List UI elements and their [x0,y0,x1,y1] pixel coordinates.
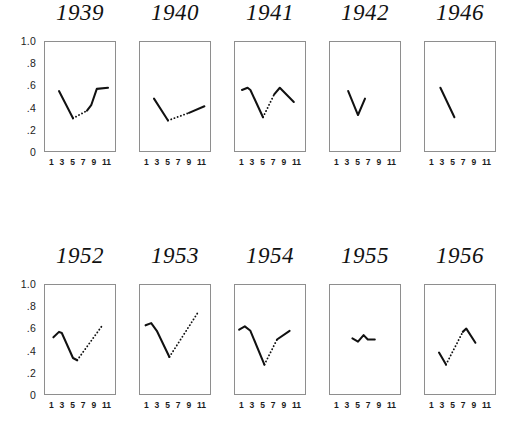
plot-area [44,284,116,395]
x-tick-label: 3 [345,157,350,167]
panel-title: 1946 [418,0,502,26]
x-axis-labels: 1357911 [424,400,496,410]
x-tick-label: 3 [440,157,445,167]
x-axis-labels: 1357911 [139,157,211,167]
panel-title: 1939 [38,0,122,26]
plot-area [234,284,306,395]
panel-row-bottom: 1.0.8.6.4.20 195213579111953135791119541… [0,243,513,444]
x-tick-label: 11 [292,157,301,167]
panel-title: 1955 [323,243,407,269]
panel-title: 1942 [323,0,407,26]
x-tick-label: 1 [144,400,149,410]
plot-area [424,41,496,152]
x-tick-label: 9 [186,400,191,410]
x-tick-label: 7 [461,400,466,410]
x-tick-label: 7 [176,157,181,167]
plot-area [329,284,401,395]
x-axis-labels: 1357911 [139,400,211,410]
x-tick-label: 5 [355,400,360,410]
plot-area [139,41,211,152]
x-tick-label: 11 [387,400,396,410]
y-tick-label: .6 [4,80,36,90]
x-tick-label: 11 [102,157,111,167]
series-segment-solid [59,91,73,118]
y-axis-bottom: 1.0.8.6.4.20 [4,284,36,395]
x-tick-label: 3 [250,400,255,410]
x-tick-label: 11 [197,157,206,167]
x-tick-label: 7 [81,157,86,167]
series-segment-dotted [264,340,277,365]
plot-area [424,284,496,395]
y-axis-top: 1.0.8.6.4.20 [4,41,36,152]
x-tick-label: 7 [271,400,276,410]
x-tick-label: 7 [366,400,371,410]
plot-area [329,41,401,152]
plot-area [139,284,211,395]
x-tick-label: 1 [334,157,339,167]
y-tick-label: 1.0 [4,36,36,46]
x-tick-label: 5 [355,157,360,167]
series-segment-solid [242,88,263,117]
panel-title: 1952 [38,243,122,269]
series-segment-dotted [73,111,87,119]
x-axis-labels: 1357911 [234,400,306,410]
x-tick-label: 9 [281,400,286,410]
x-tick-label: 1 [429,157,434,167]
x-tick-label: 5 [165,400,170,410]
x-tick-label: 5 [260,157,265,167]
panel-row-top: 1.0.8.6.4.20 193913579111940135791119411… [0,0,513,200]
x-tick-label: 9 [376,157,381,167]
panel-title: 1954 [228,243,312,269]
x-tick-label: 9 [91,400,96,410]
panels-bottom: 1952135791119531357911195413579111955135… [44,243,510,444]
y-tick-label: .8 [4,301,36,311]
panel-title: 1941 [228,0,312,26]
series-segment-solid [348,91,365,115]
series-segment-solid [146,323,170,357]
plot-area [234,41,306,152]
x-tick-label: 9 [186,157,191,167]
x-tick-label: 9 [471,400,476,410]
series-segment-solid [352,335,374,342]
x-tick-label: 11 [102,400,111,410]
series-segment-solid [277,331,290,340]
y-tick-label: .2 [4,368,36,378]
x-tick-label: 11 [292,400,301,410]
panel-title: 1953 [133,243,217,269]
x-axis-labels: 1357911 [234,157,306,167]
series-segment-solid [53,332,77,360]
x-tick-label: 5 [70,157,75,167]
y-tick-label: .6 [4,323,36,333]
x-tick-label: 1 [334,400,339,410]
x-tick-label: 3 [60,157,65,167]
series-segment-solid [239,326,264,364]
y-tick-label: .4 [4,346,36,356]
x-tick-label: 7 [461,157,466,167]
y-tick-label: 1.0 [4,279,36,289]
x-tick-label: 1 [239,400,244,410]
x-tick-label: 11 [197,400,206,410]
series-segment-solid [154,99,168,121]
x-axis-labels: 1357911 [424,157,496,167]
x-tick-label: 1 [49,157,54,167]
series-segment-solid [463,329,476,343]
y-tick-label: 0 [4,147,36,157]
x-tick-label: 7 [366,157,371,167]
x-tick-label: 1 [144,157,149,167]
series-segment-solid [439,353,446,365]
series-segment-dotted [263,94,274,117]
x-tick-label: 9 [471,157,476,167]
x-axis-labels: 1357911 [44,157,116,167]
x-axis-labels: 1357911 [44,400,116,410]
panels-top: 1939135791119401357911194113579111942135… [44,0,510,200]
series-segment-dotted [446,332,463,365]
x-tick-label: 11 [482,400,491,410]
panel-title: 1940 [133,0,217,26]
y-tick-label: .2 [4,125,36,135]
x-tick-label: 9 [91,157,96,167]
y-tick-label: 0 [4,390,36,400]
y-tick-label: .4 [4,103,36,113]
x-tick-label: 9 [281,157,286,167]
x-tick-label: 5 [70,400,75,410]
x-tick-label: 5 [165,157,170,167]
